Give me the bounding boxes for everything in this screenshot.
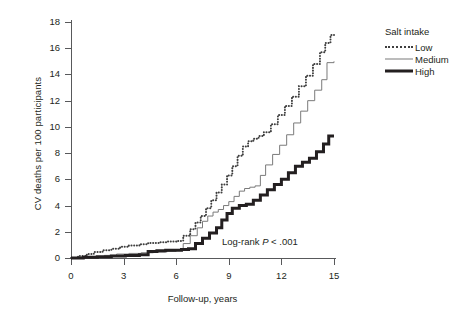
series-line-medium [71,61,334,258]
log-rank-annotation: Log-rank P < .001 [222,236,298,247]
legend-label-medium: Medium [415,54,449,65]
legend-line-low-icon [385,43,413,52]
x-axis-label: Follow-up, years [71,293,334,304]
legend-label-high: High [415,66,435,77]
legend-line-high-icon [385,67,413,76]
legend-title: Salt intake [385,26,463,37]
legend: Salt intake Low Medium High [385,26,463,77]
legend-line-medium-icon [385,55,413,64]
annotation-text-after: < .001 [268,236,297,247]
legend-label-low: Low [415,42,432,53]
legend-item-medium: Medium [385,53,463,65]
annotation-text-before: Log-rank [222,236,262,247]
kaplan-meier-figure: CV deaths per 100 participants 024681012… [0,0,463,315]
legend-item-low: Low [385,41,463,53]
legend-item-high: High [385,65,463,77]
